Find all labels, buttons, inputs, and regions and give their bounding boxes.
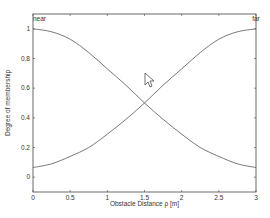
x-axis-label: Obstacle Distance ρ [m] bbox=[110, 200, 179, 208]
y-tick-label: 0 bbox=[26, 173, 30, 180]
y-axis-label: Degree of membership bbox=[4, 70, 12, 136]
y-tick-label: 0.6 bbox=[21, 84, 30, 91]
far-annotation: far bbox=[252, 15, 260, 22]
x-tick-label: 0 bbox=[31, 194, 35, 201]
y-tick-label: 1 bbox=[26, 25, 30, 32]
x-tick-label: 2.5 bbox=[214, 194, 223, 201]
x-tick-label: 1 bbox=[106, 194, 110, 201]
near-annotation: near bbox=[33, 15, 47, 22]
y-tick-label: 0.4 bbox=[21, 114, 30, 121]
y-tick-label: 0.2 bbox=[21, 144, 30, 151]
membership-chart: 00.511.522.5300.20.40.60.81 Obstacle Dis… bbox=[0, 0, 270, 218]
x-tick-label: 2 bbox=[180, 194, 184, 201]
x-tick-label: 0.5 bbox=[66, 194, 75, 201]
y-tick-label: 0.8 bbox=[21, 55, 30, 62]
x-tick-label: 3 bbox=[254, 194, 258, 201]
